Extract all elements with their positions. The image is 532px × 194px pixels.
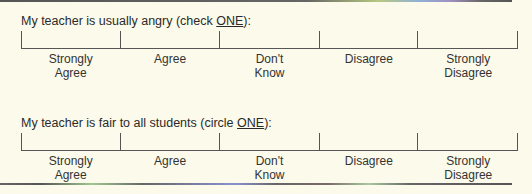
question-1-scale bbox=[21, 31, 518, 49]
scale-tick bbox=[120, 31, 121, 49]
option-dont-know[interactable]: Don'tKnow bbox=[220, 52, 319, 80]
option-label-line2: Agree bbox=[21, 66, 120, 80]
option-label-line2: Know bbox=[220, 168, 319, 182]
scale-tick bbox=[120, 133, 121, 151]
top-rule bbox=[0, 0, 512, 2]
option-strongly-agree[interactable]: StronglyAgree bbox=[21, 52, 120, 80]
option-label-line2: Know bbox=[220, 66, 319, 80]
question-1-prefix: My teacher is usually angry (check bbox=[21, 14, 216, 28]
option-label-line1: Strongly bbox=[21, 154, 120, 168]
option-label-line1: Strongly bbox=[21, 52, 120, 66]
scale-tick bbox=[319, 31, 320, 49]
option-label-line1: Don't bbox=[220, 52, 319, 66]
option-label-line1: Strongly bbox=[419, 154, 518, 168]
option-label-line1: Disagree bbox=[319, 154, 418, 168]
option-dont-know[interactable]: Don'tKnow bbox=[220, 154, 319, 182]
question-1-text: My teacher is usually angry (check ONE): bbox=[21, 14, 251, 28]
option-label-line1: Agree bbox=[120, 52, 219, 66]
question-2-text: My teacher is fair to all students (circ… bbox=[21, 116, 272, 130]
scale-tick bbox=[517, 31, 518, 49]
option-label-line2: Disagree bbox=[419, 66, 518, 80]
scale-tick bbox=[417, 31, 418, 49]
option-strongly-disagree[interactable]: StronglyDisagree bbox=[419, 52, 518, 80]
option-label-line2: Disagree bbox=[419, 168, 518, 182]
question-2-options: StronglyAgree Agree Don'tKnow Disagree S… bbox=[21, 154, 518, 182]
bottom-rule bbox=[0, 183, 512, 185]
option-disagree[interactable]: Disagree bbox=[319, 154, 418, 182]
question-1-options: StronglyAgree Agree Don'tKnow Disagree S… bbox=[21, 52, 518, 80]
option-label-line1: Don't bbox=[220, 154, 319, 168]
option-agree[interactable]: Agree bbox=[120, 52, 219, 80]
option-label-line1: Strongly bbox=[419, 52, 518, 66]
question-1-emphasis: ONE bbox=[216, 14, 243, 28]
scale-tick bbox=[219, 31, 220, 49]
scale-tick bbox=[219, 133, 220, 151]
scale-tick bbox=[21, 133, 22, 151]
question-1-suffix: ): bbox=[243, 14, 251, 28]
option-label-line2: Agree bbox=[21, 168, 120, 182]
option-agree[interactable]: Agree bbox=[120, 154, 219, 182]
option-label-line1: Agree bbox=[120, 154, 219, 168]
scale-baseline bbox=[21, 48, 518, 49]
question-2-scale bbox=[21, 133, 518, 151]
scale-baseline bbox=[21, 150, 518, 151]
option-strongly-disagree[interactable]: StronglyDisagree bbox=[419, 154, 518, 182]
option-disagree[interactable]: Disagree bbox=[319, 52, 418, 80]
option-label-line1: Disagree bbox=[319, 52, 418, 66]
scale-tick bbox=[319, 133, 320, 151]
scale-tick bbox=[517, 133, 518, 151]
option-strongly-agree[interactable]: StronglyAgree bbox=[21, 154, 120, 182]
question-2-prefix: My teacher is fair to all students (circ… bbox=[21, 116, 237, 130]
scale-tick bbox=[417, 133, 418, 151]
question-2-suffix: ): bbox=[264, 116, 272, 130]
scale-tick bbox=[21, 31, 22, 49]
question-2-emphasis: ONE bbox=[237, 116, 264, 130]
